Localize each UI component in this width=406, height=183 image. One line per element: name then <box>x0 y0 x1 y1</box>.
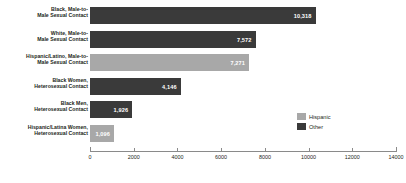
x-axis-tick-label: 8000 <box>259 154 271 160</box>
legend: Hispanic Other <box>297 112 330 132</box>
legend-swatch-icon <box>297 123 306 130</box>
x-axis-tick-label: 2000 <box>128 154 140 160</box>
bar[interactable]: 7,572 <box>90 31 256 48</box>
x-axis-tick-label: 0 <box>89 154 92 160</box>
x-axis-tick-label: 4000 <box>171 154 183 160</box>
x-axis-tick <box>309 148 310 152</box>
chart-row: White, Male-to- Male Sexual Contact 7,57… <box>0 30 406 53</box>
bar[interactable]: 1,926 <box>90 101 132 118</box>
category-label: Hispanic/Latino, Male-to- Male Sexual Co… <box>2 53 88 66</box>
x-axis-tick-label: 12000 <box>345 154 360 160</box>
category-label-line: Heterosexual Contact <box>2 83 88 89</box>
bar[interactable]: 10,318 <box>90 7 316 24</box>
category-label-line: Male Sexual Contact <box>2 36 88 42</box>
x-axis-tick <box>134 148 135 152</box>
chart-row: Black Women, Heterosexual Contact 4,146 <box>0 77 406 100</box>
legend-item-hispanic[interactable]: Hispanic <box>297 112 330 121</box>
x-axis-tick <box>265 148 266 152</box>
x-axis-line <box>90 151 396 152</box>
plot-area: Black, Male-to- Male Sexual Contact 10,3… <box>0 0 406 183</box>
chart-row: Hispanic/Latina Women, Heterosexual Cont… <box>0 124 406 147</box>
chart-row: Black, Male-to- Male Sexual Contact 10,3… <box>0 6 406 29</box>
x-axis-tick <box>352 148 353 152</box>
category-label: White, Male-to- Male Sexual Contact <box>2 30 88 43</box>
legend-item-other[interactable]: Other <box>297 122 330 131</box>
bar[interactable]: 4,146 <box>90 78 181 95</box>
bar-chart: Black, Male-to- Male Sexual Contact 10,3… <box>0 0 406 183</box>
chart-row: Black Men, Heterosexual Contact 1,926 <box>0 100 406 123</box>
bar-value-label: 7,271 <box>231 60 246 66</box>
legend-label: Other <box>309 124 323 130</box>
x-axis-tick <box>177 148 178 152</box>
x-axis-start-cap <box>90 147 91 152</box>
x-axis-tick <box>221 148 222 152</box>
bar[interactable]: 7,271 <box>90 54 249 71</box>
category-label-line: Male Sexual Contact <box>2 12 88 18</box>
bar-value-label: 1,926 <box>114 107 129 113</box>
category-label-line: Male Sexual Contact <box>2 59 88 65</box>
category-label: Black Women, Heterosexual Contact <box>2 77 88 90</box>
bar-value-label: 4,146 <box>162 84 177 90</box>
legend-label: Hispanic <box>309 114 330 120</box>
x-axis-end-cap <box>396 147 397 152</box>
bar-value-label: 7,572 <box>237 37 252 43</box>
category-label-line: Heterosexual Contact <box>2 106 88 112</box>
bar-value-label: 1,096 <box>96 131 111 137</box>
x-axis-tick-label: 14000 <box>389 154 404 160</box>
category-label-line: Heterosexual Contact <box>2 130 88 136</box>
category-label: Black, Male-to- Male Sexual Contact <box>2 6 88 19</box>
chart-row: Hispanic/Latino, Male-to- Male Sexual Co… <box>0 53 406 76</box>
legend-swatch-icon <box>297 113 306 120</box>
x-axis-tick-label: 10000 <box>301 154 316 160</box>
category-label: Black Men, Heterosexual Contact <box>2 100 88 113</box>
bar[interactable]: 1,096 <box>90 125 114 142</box>
x-axis-tick-label: 6000 <box>215 154 227 160</box>
bar-value-label: 10,318 <box>294 13 312 19</box>
category-label: Hispanic/Latina Women, Heterosexual Cont… <box>2 124 88 137</box>
